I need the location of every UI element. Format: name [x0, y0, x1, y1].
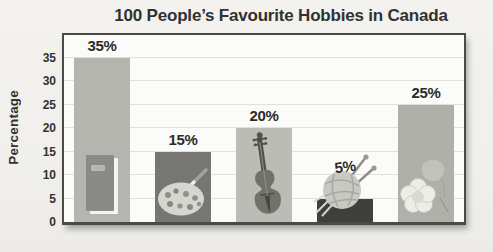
bar-knitting: 5% — [317, 35, 373, 222]
bar-music: 20% — [236, 35, 292, 222]
y-tick-label: 35 — [43, 50, 56, 66]
flower-icon — [395, 154, 457, 218]
bar-value-label-reading: 35% — [87, 37, 116, 54]
bar-value-label-gardening: 25% — [411, 84, 440, 101]
worksheet-page: 100 People’s Favourite Hobbies in Canada… — [0, 0, 493, 252]
bars-row: 35% 15% — [64, 35, 464, 222]
y-tick-label: 20 — [43, 120, 56, 136]
bar-reading: 35% — [74, 35, 130, 222]
plot-area: 35% 15% — [64, 35, 464, 222]
y-tick-label: 0 — [49, 214, 56, 230]
y-axis-ticks: 05101520253035 — [26, 35, 56, 222]
y-tick-label: 10 — [43, 167, 56, 183]
bar-painting: 15% — [155, 35, 211, 222]
y-tick-label: 15 — [43, 144, 56, 160]
y-tick-label: 30 — [43, 73, 56, 89]
y-tick-label: 5 — [49, 191, 56, 207]
paint-palette-icon — [155, 167, 211, 217]
bar-gardening: 25% — [398, 35, 454, 222]
bar-value-label-music: 20% — [249, 107, 278, 124]
violin-icon — [244, 130, 284, 218]
chart-frame: 35% 15% — [62, 33, 466, 225]
y-tick-label: 25 — [43, 97, 56, 113]
y-axis-label: Percentage — [6, 90, 21, 165]
bar-value-label-painting: 15% — [168, 131, 197, 148]
book-icon — [82, 154, 122, 216]
chart-title: 100 People’s Favourite Hobbies in Canada — [62, 6, 466, 26]
bar-value-label-knitting: 5% — [333, 156, 356, 175]
